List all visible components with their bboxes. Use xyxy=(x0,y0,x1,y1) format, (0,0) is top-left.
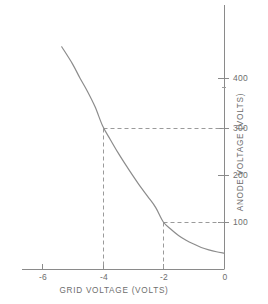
x-tick-label-zero: 0 xyxy=(209,272,241,282)
x-tick-label-minus2: -2 xyxy=(148,272,180,282)
y-axis-title: ANODE VOLTAGE (VOLTS) xyxy=(236,72,245,232)
chart-figure: -6 -4 -2 0 400 300 200 100 GRID VOLTAGE … xyxy=(0,0,268,304)
chart-plot-area xyxy=(0,0,268,304)
x-axis-title: GRID VOLTAGE (VOLTS) xyxy=(0,286,228,295)
x-tick-label-minus4: -4 xyxy=(88,272,120,282)
x-tick-label-minus6: -6 xyxy=(27,272,59,282)
